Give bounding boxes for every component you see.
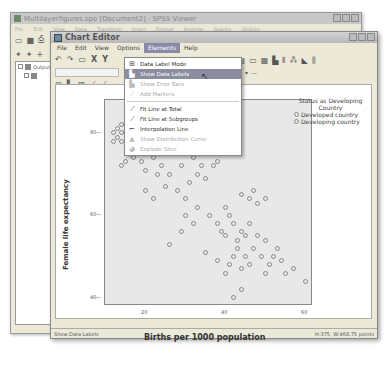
data-point[interactable] <box>179 229 184 234</box>
expand-icon[interactable]: + <box>36 50 43 59</box>
menu-elements[interactable]: Elements <box>144 43 180 53</box>
legend-item-developed[interactable]: Developed country <box>294 111 373 118</box>
menu-item-data-label-mode[interactable]: ⊞Data Label Mode <box>125 59 241 69</box>
data-point[interactable] <box>155 172 160 177</box>
menu-file[interactable]: File <box>53 43 71 53</box>
close-button[interactable] <box>351 14 359 22</box>
data-point[interactable] <box>179 163 184 168</box>
data-point[interactable] <box>199 163 204 168</box>
data-point[interactable] <box>255 201 260 206</box>
data-point[interactable] <box>159 163 164 168</box>
data-point[interactable] <box>235 246 240 251</box>
data-point[interactable] <box>247 221 252 226</box>
data-point[interactable] <box>195 172 200 177</box>
data-point[interactable] <box>203 250 208 255</box>
data-point[interactable] <box>227 262 232 267</box>
data-point[interactable] <box>203 176 208 181</box>
data-point[interactable] <box>111 130 116 135</box>
data-point[interactable] <box>195 205 200 210</box>
data-point[interactable] <box>263 238 268 243</box>
data-point[interactable] <box>271 254 276 259</box>
data-point[interactable] <box>231 254 236 259</box>
data-point[interactable] <box>231 221 236 226</box>
error-bars-icon[interactable]: ⫴ <box>282 56 285 66</box>
data-point[interactable] <box>223 205 228 210</box>
data-point[interactable] <box>223 233 228 238</box>
pie-icon[interactable]: ◣ <box>301 56 307 66</box>
menu-item-show-data-labels[interactable]: ▙Show Data Labels <box>125 69 241 79</box>
data-point[interactable] <box>119 139 124 144</box>
data-point[interactable] <box>303 279 308 284</box>
data-point[interactable] <box>239 287 244 292</box>
data-point[interactable] <box>239 266 244 271</box>
print-icon[interactable]: ⎙ <box>38 35 44 45</box>
data-point[interactable] <box>119 130 124 135</box>
maximize-button[interactable] <box>358 33 366 41</box>
menu-item-interpolation-line[interactable]: ⌐Interpolation Line <box>125 124 241 134</box>
promote-icon[interactable]: ✦ <box>15 50 22 59</box>
legend[interactable]: Status as Developing Country Developed c… <box>288 97 373 125</box>
open-icon[interactable]: ▭ <box>15 36 23 45</box>
menu-edit[interactable]: Edit <box>71 43 91 53</box>
menu-item-distribution-curve[interactable]: ▲Show Distribution Curve <box>125 134 241 144</box>
markers-icon[interactable]: ⁂ <box>289 56 297 66</box>
data-point[interactable] <box>183 213 188 218</box>
data-point[interactable] <box>251 188 256 193</box>
data-point[interactable] <box>175 188 180 193</box>
menu-help[interactable]: Help <box>180 43 202 53</box>
legend-item-developing[interactable]: Developing country <box>294 118 373 125</box>
demote-icon[interactable]: ✦ <box>26 50 33 59</box>
x-axis-icon[interactable]: X <box>91 55 97 64</box>
menu-view[interactable]: View <box>91 43 113 53</box>
collapse-icon[interactable] <box>24 73 29 78</box>
data-point[interactable] <box>119 163 124 168</box>
data-point[interactable] <box>143 188 148 193</box>
dropdown-icon[interactable]: ▾ <box>245 69 248 76</box>
data-point[interactable] <box>247 196 252 201</box>
data-point[interactable] <box>231 295 236 300</box>
data-point[interactable] <box>191 221 196 226</box>
data-point[interactable] <box>143 168 148 173</box>
data-point[interactable] <box>111 139 116 144</box>
data-point[interactable] <box>255 233 260 238</box>
line-style-icon[interactable]: — <box>251 69 257 76</box>
viewer-menu-edit[interactable]: Edit <box>33 26 43 32</box>
bars-icon[interactable]: ▙ <box>272 56 278 66</box>
data-point[interactable] <box>183 196 188 201</box>
close-button[interactable] <box>367 33 375 41</box>
data-point[interactable] <box>123 159 128 164</box>
font-field[interactable] <box>55 68 119 77</box>
data-point[interactable] <box>167 242 172 247</box>
data-point[interactable] <box>227 213 232 218</box>
menu-options[interactable]: Options <box>113 43 144 53</box>
data-point[interactable] <box>283 271 288 276</box>
menu-item-add-markers[interactable]: ⟋Add Markers <box>125 89 241 99</box>
data-point[interactable] <box>223 271 228 276</box>
data-point[interactable] <box>259 254 264 259</box>
data-point[interactable] <box>215 221 220 226</box>
data-point[interactable] <box>151 196 156 201</box>
data-point[interactable] <box>235 238 240 243</box>
data-point[interactable] <box>275 246 280 251</box>
properties-icon[interactable]: ▭ <box>78 55 86 64</box>
data-point[interactable] <box>279 258 284 263</box>
textbox-icon[interactable]: ▭ <box>249 56 257 66</box>
data-point[interactable] <box>211 163 216 168</box>
data-point[interactable] <box>239 192 244 197</box>
menu-item-show-error-bars[interactable]: ▙Show Error Bars <box>125 79 241 89</box>
menu-item-fit-line-total[interactable]: ⟋Fit Line at Total <box>125 104 241 114</box>
y-axis-icon[interactable]: Y <box>102 55 108 64</box>
save-icon[interactable]: ■ <box>27 36 35 45</box>
data-point[interactable] <box>243 233 248 238</box>
menu-item-fit-line-subgroups[interactable]: ⟋Fit Line at Subgroups <box>125 114 241 124</box>
columns-icon[interactable]: ⫼ <box>312 56 316 66</box>
viewer-menu-file[interactable]: File <box>15 26 23 32</box>
y-axis-label[interactable]: Female life expectancy <box>62 179 70 270</box>
data-point[interactable] <box>215 258 220 263</box>
collapse-icon[interactable] <box>18 64 23 69</box>
data-point[interactable] <box>139 159 144 164</box>
data-point[interactable] <box>247 262 252 267</box>
undo-icon[interactable]: ↶ <box>55 55 62 64</box>
data-point[interactable] <box>291 266 296 271</box>
data-point[interactable] <box>207 213 212 218</box>
